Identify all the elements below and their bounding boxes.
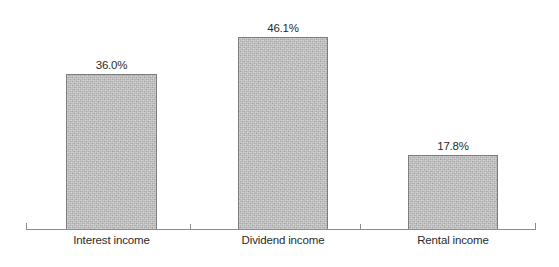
x-axis-line [26, 229, 536, 230]
bar-value-label-interest-income: 36.0% [66, 59, 157, 71]
plot-area: 36.0% 46.1% 17.8% [0, 0, 559, 230]
x-axis-label-dividend-income: Dividend income [233, 234, 333, 246]
x-axis-label-rental-income: Rental income [403, 234, 503, 246]
bar-value-label-rental-income: 17.8% [408, 140, 498, 152]
axis-tick-start [26, 223, 27, 229]
bar-rental-income[interactable] [408, 155, 498, 230]
bar-dividend-income[interactable] [238, 37, 328, 230]
bar-group-dividend-income: 46.1% [238, 17, 328, 230]
x-axis-label-interest-income: Interest income [66, 234, 157, 246]
bar-group-interest-income: 36.0% [66, 54, 157, 230]
axis-tick-separator-2 [360, 224, 361, 229]
axis-tick-end [535, 223, 536, 229]
bar-chart: 36.0% 46.1% 17.8% Interest income Divide… [0, 0, 559, 267]
bar-group-rental-income: 17.8% [408, 135, 498, 230]
axis-tick-separator-1 [190, 224, 191, 229]
bar-value-label-dividend-income: 46.1% [238, 22, 328, 34]
bar-interest-income[interactable] [66, 74, 157, 230]
